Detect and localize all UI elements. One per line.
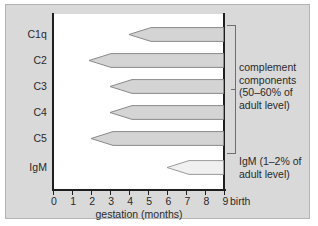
row-label-igm: IgM — [7, 162, 47, 173]
complement-annotation-line-1: complement — [239, 61, 311, 74]
birth-label: birth — [230, 195, 250, 207]
bar-c5 — [91, 131, 224, 146]
x-axis-tick-label-5: 5 — [141, 195, 157, 207]
bar-c2 — [89, 53, 224, 68]
x-axis-tick-label-7: 7 — [179, 195, 195, 207]
x-axis-line — [52, 189, 226, 191]
row-label-c5: C5 — [7, 133, 47, 144]
complement-bracket-nub — [231, 89, 236, 90]
row-label-c2: C2 — [7, 55, 47, 66]
x-axis-tick-label-8: 8 — [198, 195, 214, 207]
complement-annotation: complement components (50–60% of adult l… — [239, 61, 311, 111]
y-axis-line — [52, 13, 54, 191]
x-axis-tick-label-6: 6 — [160, 195, 176, 207]
bar-c1q — [129, 27, 224, 42]
row-label-c1q: C1q — [7, 29, 47, 40]
bar-c4 — [110, 105, 224, 120]
x-axis-tick-label-2: 2 — [84, 195, 100, 207]
bar-c3 — [110, 79, 224, 94]
complement-annotation-line-3: (50–60% of — [239, 86, 311, 99]
complement-annotation-line-2: components — [239, 74, 311, 87]
x-axis-tick-label-3: 3 — [103, 195, 119, 207]
figure-panel: C1qC2C3C4C5IgM 0123456789 birth gestatio… — [5, 4, 310, 219]
igm-annotation-line-2: adult level) — [239, 168, 311, 181]
x-axis-tick-label-0: 0 — [46, 195, 62, 207]
row-label-c3: C3 — [7, 81, 47, 92]
row-label-c4: C4 — [7, 107, 47, 118]
x-axis-tick-label-4: 4 — [122, 195, 138, 207]
x-axis-tick-label-1: 1 — [65, 195, 81, 207]
complement-annotation-line-4: adult level) — [239, 99, 311, 112]
x-axis-title: gestation (months) — [53, 208, 225, 220]
bar-igm — [167, 160, 224, 175]
igm-annotation: IgM (1–2% of adult level) — [239, 155, 311, 180]
igm-annotation-line-1: IgM (1–2% of — [239, 155, 311, 168]
